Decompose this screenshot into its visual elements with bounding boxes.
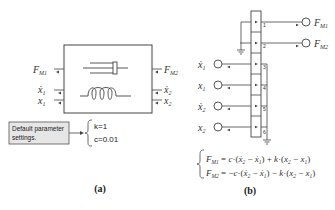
port-label-x1: x1 [37, 95, 45, 107]
equations: FM1 = c·(ẋ2 − ẋ1) + k·(x2 − x1) FM2 = −c… [197, 150, 315, 179]
equation-FM2: FM2 = −c·(ẋ2 − ẋ1) − k·(x2 − x1) [205, 168, 315, 179]
port-label-FM1: FM1 [32, 64, 47, 76]
note-line1: Default parameter [12, 125, 65, 133]
panel-b: 1 2 3 4 5 6 FM1 FM2 [197, 11, 328, 197]
panel-a: FM1 ẋ1 x1 FM2 ẋ2 x2 Default parameter se… [9, 45, 178, 195]
param-c: c=0.01 [94, 135, 119, 144]
arrow-icon [80, 131, 84, 135]
ground-wiring [237, 22, 251, 54]
input-port-x1 [214, 81, 222, 89]
svg-text:2: 2 [263, 43, 266, 49]
caption-a: (a) [94, 183, 106, 195]
spring-damper-block [64, 45, 152, 113]
svg-text:4: 4 [263, 85, 266, 91]
output-label-FM1: FM1 [313, 17, 328, 29]
output-port-FM2 [302, 39, 310, 47]
port-label-x2: x2 [163, 95, 171, 107]
svg-text:5: 5 [263, 106, 266, 112]
figure: FM1 ẋ1 x1 FM2 ẋ2 x2 Default parameter se… [0, 0, 335, 210]
right-ports: FM2 ẋ2 x2 [152, 64, 178, 107]
output-label-FM2: FM2 [313, 38, 328, 50]
input-label-x1: x1 [197, 80, 205, 92]
input-port-x1dot [214, 60, 222, 68]
param-k: k=1 [94, 122, 108, 131]
input-port-x2dot [214, 102, 222, 110]
brace-icon [85, 120, 92, 146]
note-line2: settings. [12, 134, 36, 142]
svg-text:3: 3 [263, 64, 266, 70]
input-label-x2: x2 [197, 122, 205, 134]
input-label-x2dot: ẋ2 [197, 101, 205, 113]
mux-block: 1 2 3 4 5 6 [251, 11, 266, 137]
inputs: ẋ1 x1 ẋ2 x2 [197, 59, 251, 134]
input-label-x1dot: ẋ1 [197, 59, 205, 71]
input-port-x2 [214, 123, 222, 131]
svg-text:1: 1 [263, 22, 266, 28]
outputs: FM1 FM2 [261, 17, 328, 50]
equation-FM1: FM1 = c·(ẋ2 − ẋ1) + k·(x2 − x1) [205, 154, 310, 165]
output-port-FM1 [302, 18, 310, 26]
port-label-FM2: FM2 [163, 64, 178, 76]
brace-icon [197, 150, 204, 178]
svg-text:6: 6 [263, 129, 266, 135]
caption-b: (b) [244, 185, 256, 197]
left-ports: FM1 ẋ1 x1 [32, 64, 64, 107]
